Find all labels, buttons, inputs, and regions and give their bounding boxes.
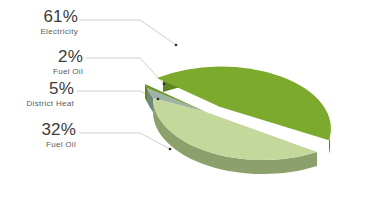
callout-name-electricity: Electricity: [0, 28, 78, 36]
leader-dot-fuel-oil-32: [169, 148, 172, 151]
callout-percent-fuel-oil-2: 2%: [0, 48, 83, 65]
callout-name-fuel-oil-2: Fuel Oil: [0, 68, 83, 76]
leader-line-fuel-oil-2: [86, 58, 164, 84]
callout-label-fuel-oil-2: 2% Fuel Oil: [0, 48, 83, 76]
callout-percent-fuel-oil-32: 32%: [0, 121, 76, 138]
leader-dot-fuel-oil-2: [163, 83, 166, 86]
callout-label-district-heat: 5% District Heat: [0, 80, 74, 108]
callout-label-fuel-oil-32: 32% Fuel Oil: [0, 121, 76, 149]
leader-line-electricity: [80, 20, 176, 45]
leader-line-fuel-oil-32: [79, 133, 170, 149]
pie-chart-figure: 61% Electricity 2% Fuel Oil 5% District …: [0, 0, 380, 219]
leader-dot-electricity: [175, 44, 178, 47]
callout-percent-electricity: 61%: [0, 8, 78, 25]
callout-name-district-heat: District Heat: [0, 100, 74, 108]
callout-label-electricity: 61% Electricity: [0, 8, 78, 36]
callout-percent-district-heat: 5%: [0, 80, 74, 97]
leader-dot-district-heat: [157, 98, 160, 101]
callout-name-fuel-oil-32: Fuel Oil: [0, 141, 76, 149]
